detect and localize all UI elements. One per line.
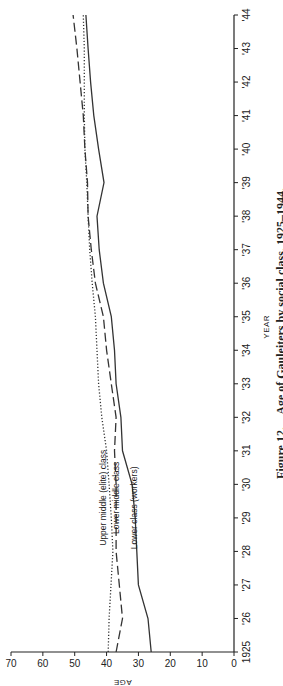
x-tick-label: '44 bbox=[241, 8, 252, 21]
x-tick-label: '40 bbox=[241, 142, 252, 155]
x-tick-label: 1925 bbox=[241, 640, 252, 663]
x-tick-label: '35 bbox=[241, 310, 252, 323]
caption-text: Age of Gauleiters by social class, 1925–… bbox=[274, 188, 283, 415]
caption-prefix: Figure 12. bbox=[274, 427, 283, 479]
x-axis-title: YEAR bbox=[262, 315, 271, 339]
x-tick-label: '33 bbox=[241, 377, 252, 390]
y-axis-ticks: 010203040506070 bbox=[5, 652, 237, 669]
y-tick-label: 40 bbox=[101, 658, 113, 669]
y-tick-label: 50 bbox=[69, 658, 81, 669]
series-line-upper-middle-elite-class bbox=[83, 15, 113, 652]
x-tick-label: '36 bbox=[241, 276, 252, 289]
x-tick-label: '43 bbox=[241, 42, 252, 55]
figure-caption: Figure 12. Age of Gauleiters by social c… bbox=[274, 188, 283, 479]
series-line-lower-class-workers bbox=[86, 15, 151, 652]
y-axis-title: AGE bbox=[113, 678, 131, 686]
rotated-chart-figure: 010203040506070 1925'26'27'28'29'30'31'3… bbox=[0, 0, 283, 686]
series-label: Upper middle (elite) class bbox=[98, 450, 108, 546]
series-labels: Upper middle (elite) classLower middle c… bbox=[98, 450, 139, 549]
y-tick-label: 0 bbox=[231, 658, 237, 669]
axes bbox=[11, 15, 234, 652]
x-tick-label: '31 bbox=[241, 444, 252, 457]
x-tick-label: '34 bbox=[241, 343, 252, 356]
series-label: Lower class (workers) bbox=[129, 466, 139, 549]
series-line-lower-middle-class bbox=[73, 15, 122, 652]
x-tick-label: '30 bbox=[241, 477, 252, 490]
x-tick-label: '38 bbox=[241, 209, 252, 222]
y-tick-label: 60 bbox=[37, 658, 49, 669]
series-label: Lower middle class bbox=[111, 462, 121, 534]
x-tick-label: '27 bbox=[241, 578, 252, 591]
y-tick-label: 10 bbox=[197, 658, 209, 669]
x-tick-label: '32 bbox=[241, 410, 252, 423]
y-tick-label: 70 bbox=[5, 658, 17, 669]
line-chart: 010203040506070 1925'26'27'28'29'30'31'3… bbox=[0, 0, 283, 686]
series-lines bbox=[73, 15, 151, 652]
y-tick-label: 20 bbox=[165, 658, 177, 669]
x-tick-label: '28 bbox=[241, 544, 252, 557]
x-tick-label: '26 bbox=[241, 612, 252, 625]
x-tick-label: '39 bbox=[241, 176, 252, 189]
x-tick-label: '29 bbox=[241, 511, 252, 524]
x-tick-label: '41 bbox=[241, 109, 252, 122]
x-tick-label: '42 bbox=[241, 75, 252, 88]
x-tick-label: '37 bbox=[241, 243, 252, 256]
y-tick-label: 30 bbox=[133, 658, 145, 669]
x-axis-ticks: 1925'26'27'28'29'30'31'32'33'34'35'36'37… bbox=[234, 8, 252, 663]
